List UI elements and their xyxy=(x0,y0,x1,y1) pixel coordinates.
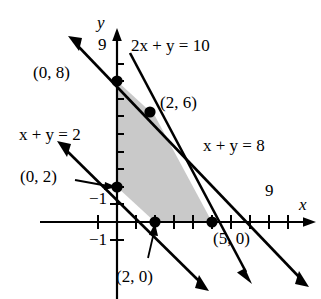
graph-figure: y x 9 9 −1 −1 2x + y = 10 x + y = 8 x + … xyxy=(0,0,321,299)
point-0-8 xyxy=(111,75,122,86)
point-0-2 xyxy=(111,181,122,192)
y-axis-arrowhead xyxy=(112,28,122,41)
point-label-2-0: (2, 0) xyxy=(116,268,153,285)
point-2-0 xyxy=(149,216,160,227)
x-axis-label: x xyxy=(299,196,307,213)
point-label-0-2: (0, 2) xyxy=(20,168,57,185)
line-x-plus-y-equals-8 xyxy=(77,45,300,278)
x-axis-arrowhead xyxy=(303,217,316,227)
x-tick-label-9: 9 xyxy=(265,182,274,199)
y-tick-label-negative-1: −1 xyxy=(89,190,107,207)
y-tick-label-9: 9 xyxy=(98,36,107,53)
x-tick-label-negative-1: −1 xyxy=(89,231,107,248)
point-5-0 xyxy=(206,216,217,227)
equation-label-2x-plus-y-equals-10: 2x + y = 10 xyxy=(131,37,210,54)
y-axis-label: y xyxy=(97,14,105,31)
line-2x-plus-y-equals-10-arrowhead xyxy=(237,268,252,284)
equation-label-x-plus-y-equals-2: x + y = 2 xyxy=(19,126,81,143)
equation-label-x-plus-y-equals-8: x + y = 8 xyxy=(203,137,265,154)
point-label-5-0: (5, 0) xyxy=(213,230,250,247)
point-2-6 xyxy=(144,106,155,117)
point-label-2-6: (2, 6) xyxy=(160,94,197,111)
point-label-0-8: (0, 8) xyxy=(33,64,70,81)
